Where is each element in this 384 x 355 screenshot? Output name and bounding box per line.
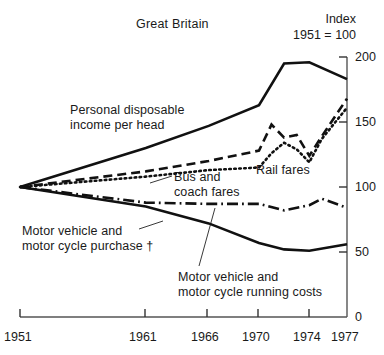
series-line-personal-disposable-income-per-head xyxy=(20,62,347,187)
leader-bus-coach xyxy=(150,176,172,183)
series-line-motor-vehicle-and-motor-cycle-purchase xyxy=(20,187,347,251)
axes xyxy=(20,57,347,317)
series-line-rail-fares xyxy=(20,108,347,187)
series-line-motor-vehicle-and-motor-cycle-running-costs xyxy=(20,187,347,210)
leader-purchase xyxy=(139,221,163,229)
leader-running-costs xyxy=(199,208,215,266)
series-line-bus-and-coach-fares xyxy=(20,99,347,187)
chart-container: Great Britain Index 1951 = 100 200 150 1… xyxy=(0,0,384,355)
series-layer xyxy=(20,62,347,251)
plot-area xyxy=(0,0,384,355)
